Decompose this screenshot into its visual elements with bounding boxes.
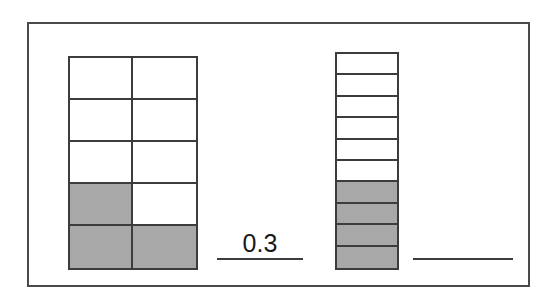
answer-value-right xyxy=(413,230,513,258)
model-cell[interactable] xyxy=(337,97,397,118)
model-cell-shaded[interactable] xyxy=(133,226,196,268)
model-cell[interactable] xyxy=(70,100,133,142)
model-cell[interactable] xyxy=(337,140,397,161)
answer-rule-right xyxy=(413,258,513,260)
model-cell-shaded[interactable] xyxy=(337,204,397,225)
model-cell[interactable] xyxy=(133,100,196,142)
fraction-model-right xyxy=(335,52,399,270)
model-cell-shaded[interactable] xyxy=(337,247,397,268)
model-cell[interactable] xyxy=(133,142,196,184)
answer-blank-left[interactable]: 0.3 xyxy=(217,230,303,260)
model-cell-shaded[interactable] xyxy=(70,226,133,268)
answer-blank-right[interactable] xyxy=(413,230,513,260)
model-cell[interactable] xyxy=(70,142,133,184)
model-cell[interactable] xyxy=(70,58,133,100)
model-cell[interactable] xyxy=(337,118,397,139)
model-cell[interactable] xyxy=(133,184,196,226)
model-cell-shaded[interactable] xyxy=(337,182,397,203)
worksheet-frame: 0.3 xyxy=(27,22,530,287)
model-cell[interactable] xyxy=(133,58,196,100)
answer-value-left: 0.3 xyxy=(217,230,303,258)
model-cell[interactable] xyxy=(337,161,397,182)
model-cell[interactable] xyxy=(337,75,397,96)
model-cell-shaded[interactable] xyxy=(337,225,397,246)
fraction-model-left xyxy=(68,56,198,270)
model-cell-shaded[interactable] xyxy=(70,184,133,226)
model-cell[interactable] xyxy=(337,54,397,75)
answer-rule-left xyxy=(217,258,303,260)
